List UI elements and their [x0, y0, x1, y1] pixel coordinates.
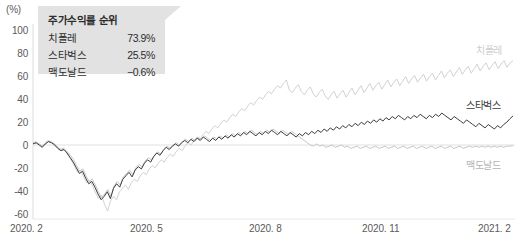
x-tick-2020-2: 2020. 2 [10, 224, 43, 234]
x-tick-2020-5: 2020. 5 [130, 224, 163, 234]
callout-row-chipotle: 치폴레 73.9% [48, 33, 155, 44]
callout-value-chipotle: 73.9% [127, 33, 155, 44]
callout-tail [165, 6, 181, 20]
callout-value-starbucks: 25.5% [127, 50, 155, 61]
stock-return-line-chart: (%) 100 80 60 40 20 0 -20 -40 -60 치폴레 스타… [0, 0, 521, 246]
series-line-chipotle [33, 61, 513, 211]
callout-value-mcdonalds: −0.6% [127, 67, 155, 78]
series-label-starbucks: 스타벅스 [466, 101, 501, 111]
series-line-starbucks [33, 113, 513, 200]
series-label-mcdonalds: 맥도날드 [466, 161, 501, 171]
series-line-mcdonalds [33, 129, 513, 197]
callout-name-mcdonalds: 맥도날드 [48, 67, 86, 78]
callout-title: 주가수익률 순위 [48, 15, 155, 26]
ranking-callout: 주가수익률 순위 치폴레 73.9% 스타벅스 25.5% 맥도날드 −0.6% [38, 6, 165, 74]
callout-name-chipotle: 치폴레 [48, 33, 77, 44]
callout-row-starbucks: 스타벅스 25.5% [48, 50, 155, 61]
series-label-chipotle: 치폴레 [476, 46, 502, 56]
x-tick-2021-2: 2021. 2 [478, 224, 511, 234]
x-tick-2020-11: 2020. 11 [362, 224, 399, 234]
callout-row-mcdonalds: 맥도날드 −0.6% [48, 67, 155, 78]
callout-name-starbucks: 스타벅스 [48, 50, 86, 61]
x-tick-2020-8: 2020. 8 [249, 224, 282, 234]
